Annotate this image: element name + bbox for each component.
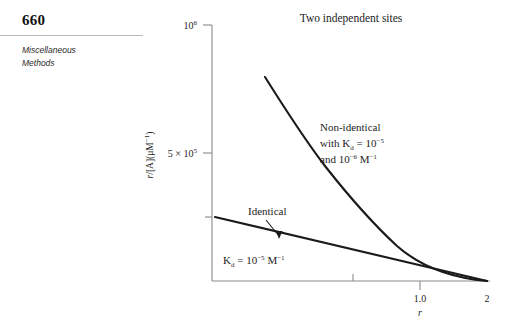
annotation-non-identical-line1: Non-identical — [320, 121, 380, 133]
y-axis-title: r/[A](μM−1) — [143, 132, 156, 179]
series-non-identical-curve — [265, 77, 487, 281]
page-number: 660 — [22, 12, 45, 29]
x-tick-label-1-0: 1.0 — [414, 293, 427, 304]
x-axis-title: r — [418, 307, 422, 318]
scatchard-plot-figure: 106 5 × 105 1.0 2 r r/[A](μM−1) Two inde… — [135, 0, 529, 321]
running-head-line-2: Methods — [22, 57, 140, 70]
annotation-identical-label: Identical — [248, 205, 286, 217]
annotation-non-identical: Non-identical with Kd = 10−5 and 10−6 M−… — [320, 121, 384, 165]
series-identical-line — [215, 217, 487, 281]
annotation-non-identical-line2: with Kd = 10−5 — [320, 137, 384, 152]
page-margin-column: 660 Miscellaneous Methods — [0, 0, 150, 321]
annotation-non-identical-line3: and 10−6 M−1 — [320, 153, 378, 165]
chart-title: Two independent sites — [300, 12, 403, 25]
running-head: Miscellaneous Methods — [22, 44, 140, 69]
y-tick-label-top: 106 — [184, 19, 198, 31]
x-tick-label-2: 2 — [485, 293, 490, 304]
y-tick-label-mid: 5 × 105 — [168, 147, 198, 159]
annotation-identical: Identical Kd = 10−5 M−1 — [223, 205, 286, 269]
margin-divider — [0, 35, 143, 36]
chart-svg: 106 5 × 105 1.0 2 r r/[A](μM−1) Two inde… — [135, 0, 529, 321]
annotation-identical-formula: Kd = 10−5 M−1 — [223, 254, 285, 269]
arrow-head — [276, 231, 283, 239]
running-head-line-1: Miscellaneous — [22, 44, 140, 57]
